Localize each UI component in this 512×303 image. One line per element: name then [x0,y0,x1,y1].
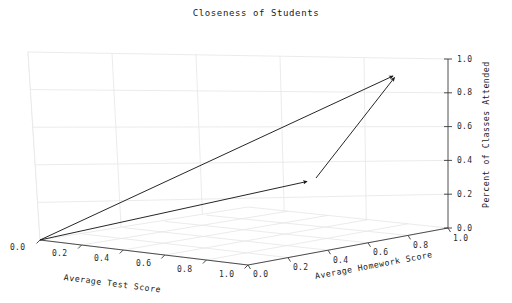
z-tick-label-3: 0.6 [457,122,472,131]
y-tick-label-0: 0.0 [253,270,268,279]
figure-canvas: Closeness of Students [0,0,512,303]
z-axis-label: Percent of Classes Attended [481,88,491,208]
x-tick-label-5: 1.0 [219,270,234,279]
x-tick-label-2: 0.4 [94,254,109,263]
y-tick-label-4: 0.8 [413,241,428,250]
x-tick-label-0: 0.0 [10,243,25,252]
y-tick-label-3: 0.6 [373,248,388,257]
y-tick-label-5: 1.0 [453,234,468,243]
x-tick-label-3: 0.6 [136,259,151,268]
z-tick-label-2: 0.4 [457,156,472,165]
x-tick-label-4: 0.8 [177,265,192,274]
y-tick-label-2: 0.4 [333,256,348,265]
x-tick-label-1: 0.2 [52,249,67,258]
z-tick-label-0: 0.0 [457,224,472,233]
y-tick-label-1: 0.2 [293,263,308,272]
plot-area [0,0,512,303]
z-tick-label-4: 0.8 [457,88,472,97]
z-tick-label-5: 1.0 [457,55,472,64]
z-tick-label-1: 0.2 [457,190,472,199]
